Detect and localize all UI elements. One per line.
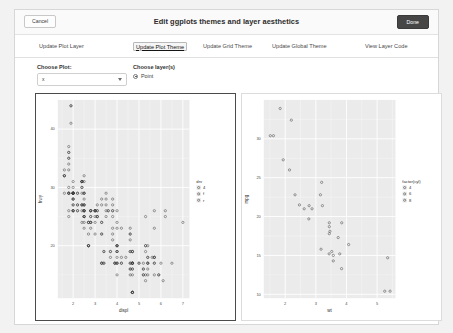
plot-card-right[interactable]: 23451015202530wtmpgfactor(cyl)468 xyxy=(241,93,442,321)
svg-text:20: 20 xyxy=(50,243,55,248)
tab-update-global-theme[interactable]: Update Global Theme xyxy=(270,42,329,50)
svg-text:25: 25 xyxy=(256,175,261,180)
svg-text:4: 4 xyxy=(409,185,412,190)
svg-text:7: 7 xyxy=(182,301,184,306)
tab-update-plot-layer[interactable]: Update Plot Layer xyxy=(37,42,86,50)
chevron-down-icon xyxy=(118,78,122,81)
svg-text:f: f xyxy=(203,191,205,196)
svg-text:4: 4 xyxy=(345,301,348,306)
svg-text:5: 5 xyxy=(138,301,141,306)
scatter-plot-wt-mpg[interactable]: 23451015202530wtmpgfactor(cyl)468 xyxy=(242,94,441,320)
svg-text:6: 6 xyxy=(160,301,163,306)
svg-text:5: 5 xyxy=(376,301,379,306)
svg-text:2: 2 xyxy=(284,301,286,306)
choose-plot-value: x xyxy=(42,76,45,82)
layer-radio-point[interactable]: Point xyxy=(133,73,153,79)
svg-text:20: 20 xyxy=(256,214,261,219)
modal-header: Cancel Edit ggplots themes and layer aes… xyxy=(15,10,438,35)
controls-row: Choose Plot: x Choose layer(s) Point xyxy=(15,58,438,88)
svg-text:6: 6 xyxy=(409,191,412,196)
tab-view-layer-code[interactable]: View Layer Code xyxy=(363,42,410,50)
svg-text:30: 30 xyxy=(50,185,55,190)
page-title: Edit ggplots themes and layer aesthetics xyxy=(15,17,438,26)
choose-layer-label: Choose layer(s) xyxy=(133,64,175,70)
tab-bar: Update Plot Layer Update Plot Theme Upda… xyxy=(15,35,438,58)
layer-radio-label: Point xyxy=(141,73,153,79)
svg-text:mpg: mpg xyxy=(244,194,249,203)
plot-card-left[interactable]: 234567203040displhwydrv4fr xyxy=(35,93,236,321)
tab-update-grid-theme[interactable]: Update Grid Theme xyxy=(201,42,254,50)
svg-text:wt: wt xyxy=(327,308,332,313)
svg-text:displ: displ xyxy=(119,308,128,313)
plots-container: 234567203040displhwydrv4fr 2345101520253… xyxy=(15,87,438,324)
radio-selected-icon xyxy=(133,74,138,79)
svg-text:10: 10 xyxy=(256,292,261,297)
svg-text:4: 4 xyxy=(116,301,119,306)
svg-text:40: 40 xyxy=(50,126,55,131)
svg-text:r: r xyxy=(203,198,205,203)
svg-text:15: 15 xyxy=(256,253,261,258)
svg-text:factor(cyl): factor(cyl) xyxy=(402,179,421,184)
done-button[interactable]: Done xyxy=(397,15,429,29)
modal-dialog: Cancel Edit ggplots themes and layer aes… xyxy=(14,9,439,325)
svg-text:30: 30 xyxy=(256,136,261,141)
svg-text:3: 3 xyxy=(315,301,318,306)
choose-plot-label: Choose Plot: xyxy=(37,64,72,70)
choose-plot-select[interactable]: x xyxy=(37,73,127,86)
svg-text:drv: drv xyxy=(196,179,203,184)
tab-update-plot-theme[interactable]: Update Plot Theme xyxy=(133,42,187,51)
svg-text:3: 3 xyxy=(94,301,97,306)
scatter-plot-displ-hwy[interactable]: 234567203040displhwydrv4fr xyxy=(36,94,235,320)
svg-text:hwy: hwy xyxy=(38,194,43,203)
svg-text:8: 8 xyxy=(409,198,412,203)
svg-text:4: 4 xyxy=(203,185,206,190)
svg-text:2: 2 xyxy=(72,301,74,306)
